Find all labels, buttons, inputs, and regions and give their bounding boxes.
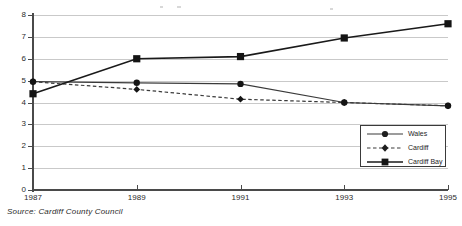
data-point-marker	[237, 96, 244, 103]
data-point-marker	[29, 90, 36, 97]
legend-label-wales: Wales	[408, 130, 427, 138]
legend-label-cardiff-bay: Cardiff Bay	[408, 158, 443, 166]
legend: Wales Cardiff Cardiff Bay	[360, 125, 446, 167]
legend-swatch-cardiff	[365, 141, 405, 155]
data-point-marker	[341, 99, 348, 106]
data-point-marker	[133, 86, 140, 93]
data-point-marker	[341, 34, 348, 41]
data-point-marker	[133, 55, 140, 62]
data-point-marker	[444, 20, 451, 27]
legend-item-wales[interactable]: Wales	[361, 127, 447, 141]
legend-item-cardiff-bay[interactable]: Cardiff Bay	[361, 155, 447, 169]
data-point-marker	[30, 78, 37, 85]
legend-item-cardiff[interactable]: Cardiff	[361, 141, 447, 155]
data-point-marker	[237, 81, 243, 87]
legend-swatch-wales	[365, 127, 405, 141]
source-caption: Source: Cardiff County Council	[7, 207, 123, 216]
legend-label-cardiff: Cardiff	[408, 144, 429, 152]
data-point-marker	[134, 80, 140, 86]
legend-swatch-cardiff-bay	[365, 155, 405, 169]
data-point-marker	[445, 102, 452, 109]
data-point-marker	[237, 53, 244, 60]
